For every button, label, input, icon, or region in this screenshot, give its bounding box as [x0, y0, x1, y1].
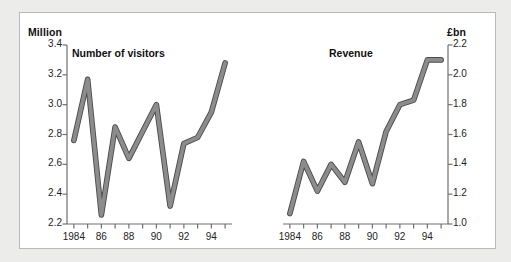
y-tick-label: 1.8 — [453, 98, 493, 109]
y-tick-label: 3.4 — [22, 38, 62, 49]
y-tick-label: 1.0 — [453, 217, 493, 228]
y-tick-label: 2.0 — [453, 68, 493, 79]
x-tick-label: 94 — [191, 231, 231, 242]
y-tick-label: 2.6 — [22, 157, 62, 168]
y-tick-label: 1.4 — [453, 157, 493, 168]
y-tick-label: 3.0 — [22, 98, 62, 109]
figure-root: Million £bn Number of visitors Revenue 3… — [0, 0, 511, 262]
y-tick-label: 3.2 — [22, 68, 62, 79]
y-tick-label: 1.6 — [453, 128, 493, 139]
x-tick-label: 94 — [407, 231, 447, 242]
y-tick-label: 2.8 — [22, 128, 62, 139]
revenue-chart-plot — [0, 0, 511, 262]
y-tick-label: 2.4 — [22, 187, 62, 198]
y-tick-label: 2.2 — [453, 38, 493, 49]
y-tick-label: 1.2 — [453, 187, 493, 198]
y-tick-label: 2.2 — [22, 217, 62, 228]
